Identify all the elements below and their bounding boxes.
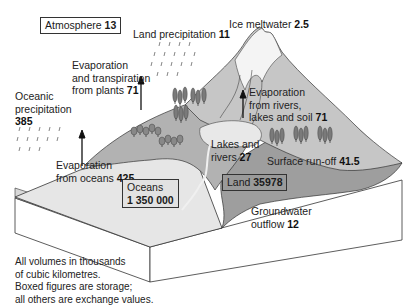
land-storage-box: Land 35978	[222, 174, 287, 191]
land-precipitation-label: Land precipitation 11	[133, 28, 230, 41]
oceanic-precipitation-label: Oceanic precipitation 385	[15, 90, 72, 128]
ice-meltwater-label: Ice meltwater 2.5	[229, 18, 309, 31]
atmosphere-storage-box: Atmosphere 13	[40, 17, 121, 34]
atmosphere-value: 13	[105, 19, 117, 31]
oceans-storage-box: Oceans 1 350 000	[122, 179, 179, 208]
evaporation-rivers-label: Evaporation from rivers, lakes and soil …	[249, 86, 327, 124]
oceans-value: 1 350 000	[127, 194, 174, 206]
surface-runoff-label: Surface run-off 41.5	[267, 155, 360, 168]
groundwater-outflow-label: Groundwater outflow 12	[251, 205, 312, 230]
lakes-rivers-label: Lakes and rivers 27	[211, 138, 259, 163]
land-value: 35978	[253, 176, 282, 188]
oceans-label: Oceans	[127, 181, 174, 194]
units-note: All volumes in thousands of cubic kilome…	[15, 256, 153, 306]
evaporation-plants-label: Evaporation and transpiration from plant…	[72, 59, 150, 97]
atmosphere-label: Atmosphere	[45, 19, 102, 31]
land-label: Land	[227, 176, 250, 188]
